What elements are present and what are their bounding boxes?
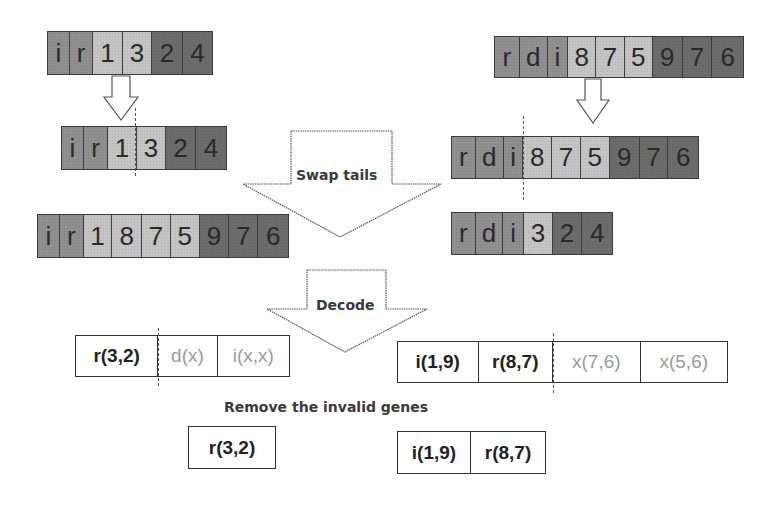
gene-cell: i [38,215,60,257]
gene-cell: d [476,137,504,178]
parent-chromosome-right-cut: r d i 8 7 5 9 7 6 [451,136,699,179]
gene-cell: 3 [524,213,553,254]
gene-cell: 8 [523,137,552,178]
decoded-genes-left: r(3,2) d(x) i(x,x) [75,335,290,377]
decoded-gene: r(8,7) [479,342,554,382]
gene-cell: 6 [258,215,288,257]
gene-cell: 6 [712,37,743,77]
gene-cell: 2 [152,32,183,74]
gene-cell: d [520,37,548,77]
gene-cell: 7 [596,37,625,77]
decoded-gene-invalid: x(7,6) [553,342,640,382]
gene-cell: i [548,37,569,77]
parent-chromosome-right: r d i 8 7 5 9 7 6 [494,36,744,78]
down-arrow-icon [575,79,611,125]
gene-cell: r [70,32,93,74]
crossover-point-left [135,108,136,176]
gene-cell: i [48,32,70,74]
final-gene: r(8,7) [471,432,545,473]
child-chromosome-left: i r 1 8 7 5 9 7 6 [37,214,289,258]
gene-cell: 2 [553,213,583,254]
decoded-gene-invalid: i(x,x) [218,336,289,376]
gene-cell: r [60,215,84,257]
gene-cell: 1 [93,32,123,74]
child-chromosome-right: r d i 3 2 4 [451,212,613,255]
down-arrow-icon [103,76,139,122]
gene-cell: 5 [581,137,610,178]
gene-cell: i [504,137,524,178]
gene-cell: 2 [166,127,196,169]
gene-cell: 4 [183,32,212,74]
gene-cell: 1 [84,215,113,257]
gene-cell: d [476,213,504,254]
gene-cell: 7 [683,37,713,77]
final-gene: r(3,2) [189,427,275,468]
gene-cell: r [452,137,476,178]
gene-cell: 7 [229,215,258,257]
gene-cell: r [84,127,108,169]
gene-cell: 9 [653,37,683,77]
gene-cell: r [452,213,476,254]
gene-cell: 9 [200,215,230,257]
final-gene: i(1,9) [398,432,471,473]
final-genes-left: r(3,2) [188,426,276,469]
crossover-point-decoded-right [553,333,554,393]
gene-cell: i [503,213,524,254]
decoded-genes-right: i(1,9) r(8,7) x(7,6) x(5,6) [397,341,728,383]
gene-cell: 8 [112,215,142,257]
gene-cell: 7 [640,137,669,178]
crossover-point-right [523,116,524,200]
gene-cell: i [62,127,84,169]
gene-cell: 5 [625,37,653,77]
final-genes-right: i(1,9) r(8,7) [397,431,546,474]
decoded-gene-invalid: x(5,6) [641,342,727,382]
gene-cell: 9 [610,137,640,178]
gene-cell: 6 [668,137,698,178]
gene-cell: 5 [171,215,200,257]
gene-cell: 3 [123,32,152,74]
gene-cell: 4 [196,127,226,169]
crossover-point-decoded-left [158,328,159,386]
gene-cell: 4 [582,213,612,254]
gene-cell: 3 [137,127,166,169]
remove-invalid-caption: Remove the invalid genes [224,399,428,415]
parent-chromosome-left-cut: i r 1 3 2 4 [61,126,227,170]
gene-cell: 7 [552,137,581,178]
decoded-gene: i(1,9) [398,342,479,382]
gene-cell: r [495,37,520,77]
gene-cell: 7 [142,215,171,257]
decode-label: Decode [316,297,375,313]
gene-cell: 8 [568,37,596,77]
parent-chromosome-left: i r 1 3 2 4 [47,31,213,75]
decoded-gene: r(3,2) [76,336,158,376]
swap-tails-label: Swap tails [296,167,377,183]
decoded-gene-invalid: d(x) [158,336,217,376]
gene-cell: 1 [108,127,137,169]
